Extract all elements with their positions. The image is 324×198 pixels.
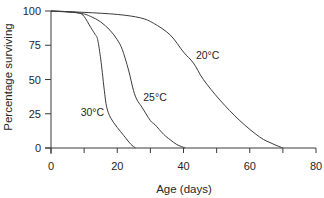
x-tick-label: 20 xyxy=(111,160,123,172)
y-tick-label: 25 xyxy=(29,108,41,120)
y-tick-label: 0 xyxy=(35,142,41,154)
y-tick-label: 75 xyxy=(29,39,41,51)
series-line-30c xyxy=(51,11,135,148)
y-tick-label: 50 xyxy=(29,74,41,86)
annotations-group: 30°C25°C20°C xyxy=(81,49,220,119)
x-tick-label: 60 xyxy=(244,160,256,172)
series-label: 25°C xyxy=(143,91,167,103)
x-axis-title: Age (days) xyxy=(156,183,212,195)
series-label: 20°C xyxy=(196,49,220,61)
series-line-25c xyxy=(51,11,185,148)
series-line-20c xyxy=(51,11,283,148)
y-axis-title: Percentage surviving xyxy=(2,23,14,130)
x-tick-label: 40 xyxy=(177,160,189,172)
axes: 0204060800255075100 xyxy=(23,5,322,172)
series-group xyxy=(51,11,283,148)
series-label: 30°C xyxy=(81,106,105,118)
x-tick-label: 80 xyxy=(310,160,322,172)
x-tick-label: 0 xyxy=(48,160,54,172)
y-tick-label: 100 xyxy=(23,5,41,17)
survival-chart: 0204060800255075100 30°C25°C20°C Age (da… xyxy=(0,0,324,198)
